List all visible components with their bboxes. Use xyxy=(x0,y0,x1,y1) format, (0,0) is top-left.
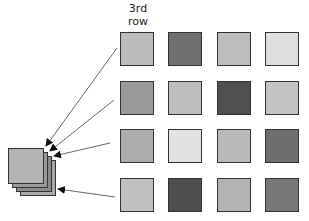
arrows xyxy=(0,0,309,221)
arrow-1 xyxy=(46,48,117,146)
arrow-3 xyxy=(54,143,110,156)
arrow-2 xyxy=(50,100,114,151)
arrow-4 xyxy=(58,189,115,197)
